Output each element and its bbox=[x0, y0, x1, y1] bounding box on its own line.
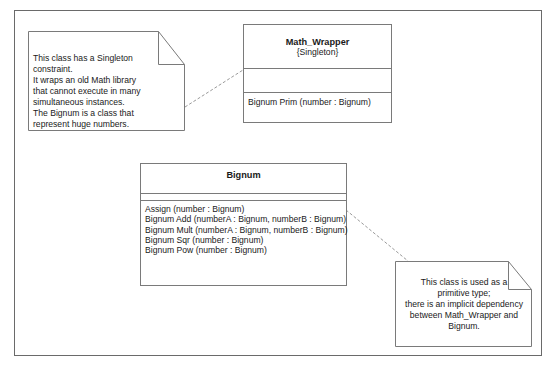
class-bignum-header: Bignum bbox=[141, 164, 346, 194]
operation: Assign (number : Bignum) bbox=[145, 204, 346, 214]
operation: Bignum Prim (number : Bignum) bbox=[248, 97, 391, 107]
class-name: Math_Wrapper bbox=[244, 37, 391, 47]
note-primitive: This class is used as a primitive type; … bbox=[400, 277, 528, 332]
class-stereotype: {Singleton} bbox=[244, 47, 391, 57]
note-primitive-text: This class is used as a primitive type; … bbox=[400, 277, 528, 332]
class-bignum[interactable]: Bignum Assign (number : Bignum) Bignum A… bbox=[140, 163, 347, 286]
operation: Bignum Sqr (number : Bignum) bbox=[145, 235, 346, 245]
operation: Bignum Pow (number : Bignum) bbox=[145, 245, 346, 255]
note-singleton: This class has a Singleton constraint. I… bbox=[33, 53, 141, 130]
class-bignum-operations: Assign (number : Bignum) Bignum Add (num… bbox=[141, 201, 346, 255]
note-singleton-text: This class has a Singleton constraint. I… bbox=[33, 53, 141, 130]
operation: Bignum Mult (numberA : Bignum, numberB :… bbox=[145, 225, 346, 235]
class-math-wrapper-header: Math_Wrapper {Singleton} bbox=[244, 25, 391, 69]
operation: Bignum Add (numberA : Bignum, numberB : … bbox=[145, 214, 346, 224]
class-math-wrapper-attributes bbox=[244, 69, 391, 93]
note-singleton-anchor-line bbox=[185, 70, 243, 107]
class-math-wrapper[interactable]: Math_Wrapper {Singleton} Bignum Prim (nu… bbox=[243, 24, 392, 123]
class-name: Bignum bbox=[141, 170, 346, 180]
note-primitive-anchor-line bbox=[346, 210, 408, 261]
class-math-wrapper-operations: Bignum Prim (number : Bignum) bbox=[244, 93, 391, 107]
class-bignum-attributes bbox=[141, 194, 346, 201]
